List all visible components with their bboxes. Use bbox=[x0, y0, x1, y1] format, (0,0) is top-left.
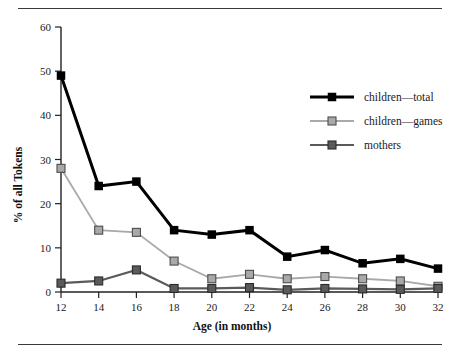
series-marker bbox=[208, 284, 216, 292]
series-marker bbox=[132, 266, 140, 274]
series-marker bbox=[95, 277, 103, 285]
y-axis-tick-label: 30 bbox=[40, 154, 52, 166]
legend-item-2[interactable]: children—games bbox=[310, 115, 443, 128]
series-marker bbox=[246, 284, 254, 292]
series-marker bbox=[170, 257, 178, 265]
series-marker bbox=[321, 273, 329, 281]
series-marker bbox=[396, 255, 405, 264]
series-marker bbox=[57, 164, 65, 172]
x-axis-tick-label: 14 bbox=[93, 301, 105, 313]
x-axis-tick-label: 22 bbox=[244, 301, 255, 313]
series-marker bbox=[246, 270, 254, 278]
x-axis-tick-label: 32 bbox=[433, 301, 444, 313]
y-axis-tick-label: 40 bbox=[40, 109, 52, 121]
legend-item-1[interactable]: children—total bbox=[310, 91, 434, 103]
x-axis-title: Age (in months) bbox=[193, 320, 272, 333]
series-marker bbox=[321, 246, 330, 255]
series-marker bbox=[283, 275, 291, 283]
series-marker bbox=[94, 182, 103, 191]
series-marker bbox=[170, 226, 179, 235]
series-marker bbox=[434, 284, 442, 292]
x-axis-tick-label: 24 bbox=[282, 301, 294, 313]
series-marker bbox=[359, 285, 367, 293]
x-axis: 1214161820222426283032 bbox=[56, 292, 444, 313]
chart-legend: children—totalchildren—gamesmothers bbox=[310, 91, 443, 151]
series-container bbox=[57, 71, 443, 293]
legend-swatch-marker bbox=[328, 141, 336, 149]
x-axis-tick-label: 18 bbox=[169, 301, 181, 313]
series-marker bbox=[208, 230, 217, 239]
y-axis-tick-label: 0 bbox=[46, 286, 52, 298]
x-axis-tick-label: 20 bbox=[206, 301, 218, 313]
series-marker bbox=[95, 226, 103, 234]
figure: 0102030405060 1214161820222426283032 chi… bbox=[0, 0, 455, 355]
x-axis-tick-label: 12 bbox=[56, 301, 67, 313]
series-marker bbox=[359, 275, 367, 283]
y-axis-tick-label: 50 bbox=[40, 65, 52, 77]
legend-label: children—total bbox=[364, 91, 434, 103]
x-axis-tick-label: 26 bbox=[319, 301, 331, 313]
x-axis-tick-label: 28 bbox=[357, 301, 369, 313]
legend-item-3[interactable]: mothers bbox=[310, 139, 402, 151]
series-marker bbox=[283, 252, 292, 261]
legend-swatch-marker bbox=[328, 117, 336, 125]
series-marker bbox=[170, 284, 178, 292]
series-marker bbox=[434, 264, 443, 273]
legend-label: children—games bbox=[364, 115, 443, 128]
y-axis-tick-label: 10 bbox=[40, 242, 52, 254]
y-axis-title: % of all Tokens bbox=[12, 146, 24, 223]
series-line bbox=[61, 76, 438, 269]
series-marker bbox=[396, 285, 404, 293]
legend-label: mothers bbox=[364, 139, 402, 151]
y-axis-tick-label: 60 bbox=[40, 21, 52, 33]
series-marker bbox=[132, 228, 140, 236]
series-marker bbox=[321, 284, 329, 292]
line-chart: 0102030405060 1214161820222426283032 chi… bbox=[0, 0, 455, 355]
series-marker bbox=[57, 279, 65, 287]
series-marker bbox=[283, 286, 291, 294]
legend-swatch-marker bbox=[328, 93, 337, 102]
series-marker bbox=[358, 259, 367, 268]
x-axis-tick-label: 30 bbox=[395, 301, 407, 313]
series-marker bbox=[208, 275, 216, 283]
y-axis: 0102030405060 bbox=[40, 21, 61, 298]
x-axis-tick-label: 16 bbox=[131, 301, 143, 313]
series-marker bbox=[245, 226, 254, 235]
series-marker bbox=[132, 177, 141, 186]
series-marker bbox=[57, 71, 66, 80]
series-marker bbox=[396, 277, 404, 285]
y-axis-tick-label: 20 bbox=[40, 198, 52, 210]
